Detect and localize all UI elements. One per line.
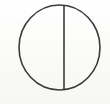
circle-outline [19, 5, 100, 90]
figure-canvas: Circle with vertical diameter A hand-dra… [0, 0, 110, 104]
circle-diagram: Circle with vertical diameter A hand-dra… [0, 0, 110, 104]
